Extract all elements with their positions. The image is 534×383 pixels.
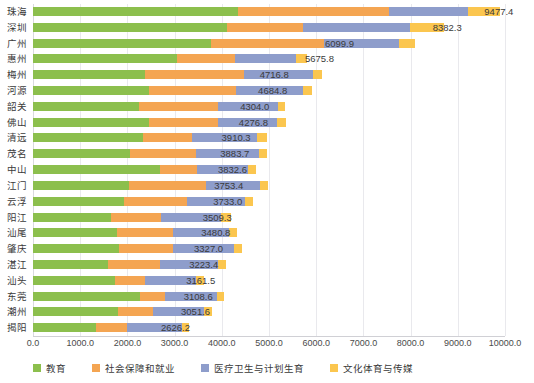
bar-segment: [277, 118, 285, 127]
legend-label: 教育: [46, 361, 66, 375]
bar-segment: [33, 133, 143, 142]
bar-segment: [111, 213, 161, 222]
bar-value-label: 3480.8: [201, 225, 230, 240]
bar-track: [33, 276, 204, 285]
legend-label: 医疗卫生与计划生育: [214, 361, 304, 375]
bar-row: 揭阳2626.2: [33, 320, 505, 336]
legend-label: 社会保障和就业: [105, 361, 175, 375]
bar-value-label: 3509.3: [203, 210, 232, 225]
category-label: 佛山: [7, 115, 27, 130]
bar-value-label: 3161.5: [186, 273, 215, 288]
bar-row: 汕头3161.5: [33, 273, 505, 289]
bar-segment: [33, 244, 119, 253]
x-tick-label: 5000.0: [255, 338, 283, 348]
x-tick-label: 10000.0: [489, 338, 522, 348]
category-label: 惠州: [7, 51, 27, 66]
bar-value-label: 3223.4: [189, 257, 218, 272]
bar-segment: [238, 7, 389, 16]
legend-item[interactable]: 医疗卫生与计划生育: [201, 361, 304, 375]
bar-segment: [33, 7, 238, 16]
bar-value-label: 2626.2: [161, 320, 190, 335]
bar-segment: [33, 23, 227, 32]
legend-item[interactable]: 教育: [33, 361, 66, 375]
bar-segment: [211, 39, 324, 48]
bar-row: 肇庆3327.0: [33, 241, 505, 257]
bar-segment: [145, 70, 244, 79]
bar-track: [33, 23, 444, 32]
bar-segment: [149, 118, 218, 127]
bar-segment: [160, 165, 197, 174]
bar-track: [33, 39, 415, 48]
bar-segment: [313, 70, 322, 79]
bar-segment: [96, 323, 128, 332]
category-label: 揭阳: [7, 320, 27, 335]
bar-value-label: 3883.7: [220, 146, 249, 161]
category-label: 广州: [7, 36, 27, 51]
bar-segment: [33, 39, 211, 48]
bar-segment: [227, 23, 303, 32]
bar-row: 珠海9477.4: [33, 4, 505, 20]
bar-row: 湛江3223.4: [33, 257, 505, 273]
x-tick-label: 6000.0: [302, 338, 330, 348]
bar-segment: [130, 149, 196, 158]
bar-segment: [33, 213, 111, 222]
bar-track: [33, 7, 500, 16]
stacked-bar-chart: 珠海9477.4深圳8382.3广州6099.9惠州5675.8梅州4716.8…: [0, 0, 534, 383]
bar-segment: [260, 181, 268, 190]
x-tick-label: 0.0: [27, 338, 40, 348]
bar-value-label: 3051.6: [181, 304, 210, 319]
plot-area: 珠海9477.4深圳8382.3广州6099.9惠州5675.8梅州4716.8…: [33, 4, 505, 336]
bar-segment: [33, 323, 96, 332]
bar-segment: [108, 260, 161, 269]
bar-value-label: 3832.6: [218, 162, 247, 177]
bar-value-label: 3108.6: [184, 289, 213, 304]
bar-segment: [33, 307, 118, 316]
bar-rows: 珠海9477.4深圳8382.3广州6099.9惠州5675.8梅州4716.8…: [33, 4, 505, 336]
bar-segment: [119, 244, 173, 253]
bar-segment: [33, 260, 108, 269]
bar-value-label: 5675.8: [305, 51, 334, 66]
x-tick-label: 3000.0: [161, 338, 189, 348]
bar-value-label: 8382.3: [433, 20, 462, 35]
bar-segment: [140, 292, 165, 301]
bar-value-label: 4684.8: [258, 83, 287, 98]
category-label: 阳江: [7, 210, 27, 225]
bar-segment: [33, 165, 160, 174]
bar-segment: [235, 54, 295, 63]
category-label: 深圳: [7, 20, 27, 35]
bar-segment: [33, 292, 140, 301]
category-label: 东莞: [7, 289, 27, 304]
category-label: 云浮: [7, 194, 27, 209]
category-label: 汕尾: [7, 225, 27, 240]
category-label: 河源: [7, 83, 27, 98]
category-label: 清远: [7, 130, 27, 145]
bar-row: 韶关4304.0: [33, 99, 505, 115]
bar-value-label: 4304.0: [240, 99, 269, 114]
bar-segment: [389, 7, 468, 16]
legend-item[interactable]: 文化体育与传媒: [330, 361, 413, 375]
bar-segment: [33, 149, 130, 158]
bar-row: 惠州5675.8: [33, 51, 505, 67]
bar-segment: [33, 181, 129, 190]
bar-segment: [139, 102, 218, 111]
bar-segment: [118, 307, 152, 316]
bar-segment: [143, 133, 192, 142]
legend-item[interactable]: 社会保障和就业: [92, 361, 175, 375]
bar-value-label: 3327.0: [194, 241, 223, 256]
category-label: 韶关: [7, 99, 27, 114]
bar-segment: [259, 149, 267, 158]
bar-segment: [303, 86, 311, 95]
bar-segment: [124, 197, 187, 206]
bar-row: 阳江3509.3: [33, 210, 505, 226]
x-tick-label: 2000.0: [114, 338, 142, 348]
category-label: 潮州: [7, 304, 27, 319]
bar-row: 佛山4276.8: [33, 115, 505, 131]
category-label: 汕头: [7, 273, 27, 288]
bar-segment: [245, 197, 253, 206]
bar-value-label: 3910.3: [222, 130, 251, 145]
bar-value-label: 6099.9: [325, 36, 354, 51]
legend-swatch-icon: [33, 364, 41, 372]
category-label: 珠海: [7, 4, 27, 19]
legend-swatch-icon: [330, 364, 338, 372]
bar-row: 汕尾3480.8: [33, 225, 505, 241]
